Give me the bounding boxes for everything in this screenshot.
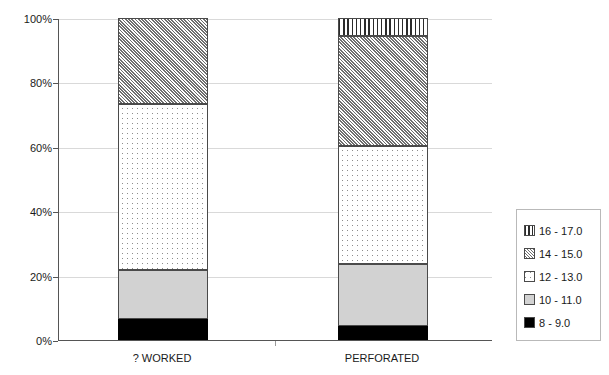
legend-label: 14 - 15.0: [539, 248, 582, 260]
legend-label: 8 - 9.0: [539, 317, 570, 329]
bar-segment-10-11[interactable]: [118, 270, 208, 319]
legend-item-10-11[interactable]: 10 - 11.0: [524, 288, 600, 311]
legend-swatch-vertical-stripe-icon: [524, 225, 535, 236]
bar-segment-14-15[interactable]: [118, 18, 208, 104]
bar-segment-10-11[interactable]: [338, 264, 428, 326]
legend-label: 10 - 11.0: [539, 294, 582, 306]
legend-swatch-solid-black-icon: [524, 317, 535, 328]
legend-item-16-17[interactable]: 16 - 17.0: [524, 219, 600, 242]
y-tick-label: 20%: [0, 272, 52, 283]
x-category-label-perforated: PERFORATED: [332, 352, 432, 364]
bar-segment-8-9[interactable]: [338, 326, 428, 340]
y-tick-label: 40%: [0, 207, 52, 218]
y-tick-label: 80%: [0, 78, 52, 89]
legend-swatch-light-gray-icon: [524, 294, 535, 305]
plot-area: [58, 19, 492, 341]
legend-label: 16 - 17.0: [539, 225, 582, 237]
legend-item-14-15[interactable]: 14 - 15.0: [524, 242, 600, 265]
legend-item-12-13[interactable]: 12 - 13.0: [524, 265, 600, 288]
bar-segment-16-17[interactable]: [338, 18, 428, 36]
bar-segment-14-15[interactable]: [338, 36, 428, 146]
legend-label: 12 - 13.0: [539, 271, 582, 283]
bar-segment-12-13[interactable]: [118, 104, 208, 270]
bar-segment-12-13[interactable]: [338, 146, 428, 264]
y-tick-label: 0%: [0, 336, 52, 347]
legend-swatch-dots-icon: [524, 271, 535, 282]
x-tick-mark: [275, 341, 276, 346]
bar-segment-8-9[interactable]: [118, 319, 208, 340]
stacked-bar-chart: 100% 80% 60% 40% 20% 0%: [0, 0, 609, 375]
y-tick-mark: [53, 341, 58, 342]
y-tick-label: 60%: [0, 143, 52, 154]
legend: 16 - 17.0 14 - 15.0 12 - 13.0 10 - 11.0 …: [516, 209, 601, 341]
legend-item-8-9[interactable]: 8 - 9.0: [524, 311, 600, 334]
y-tick-label: 100%: [0, 14, 52, 25]
x-category-label-worked: ? WORKED: [112, 352, 212, 364]
legend-swatch-diagonal-hatch-icon: [524, 248, 535, 259]
